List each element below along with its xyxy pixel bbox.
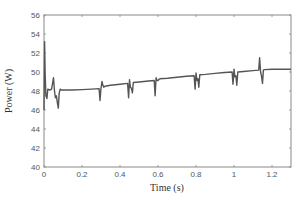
y-tick-label: 46 bbox=[31, 106, 40, 115]
y-axis-label: Power (W) bbox=[3, 69, 15, 113]
x-tick-label: 0.4 bbox=[114, 170, 126, 179]
power-vs-time-chart: 00.20.40.60.811.2 404244464850525456 Tim… bbox=[0, 0, 304, 201]
x-axis-label: Time (s) bbox=[150, 182, 184, 194]
axes-box bbox=[44, 15, 291, 167]
y-tick-label: 40 bbox=[31, 163, 40, 172]
x-tick-label: 1 bbox=[232, 170, 237, 179]
y-tick-label: 48 bbox=[31, 87, 40, 96]
x-tick-label: 0 bbox=[42, 170, 47, 179]
y-tick-label: 56 bbox=[31, 11, 40, 20]
y-tick-label: 42 bbox=[31, 144, 40, 153]
y-tick-label: 54 bbox=[31, 30, 40, 39]
y-tick-label: 52 bbox=[31, 49, 40, 58]
plot-area: 00.20.40.60.811.2 404244464850525456 bbox=[31, 11, 291, 179]
x-axis-ticks: 00.20.40.60.811.2 bbox=[42, 15, 278, 179]
x-tick-label: 0.6 bbox=[152, 170, 164, 179]
y-axis-ticks: 404244464850525456 bbox=[31, 11, 291, 172]
x-tick-label: 0.2 bbox=[76, 170, 88, 179]
y-tick-label: 50 bbox=[31, 68, 40, 77]
x-tick-label: 1.2 bbox=[266, 170, 278, 179]
power-series-line bbox=[44, 42, 291, 110]
x-tick-label: 0.8 bbox=[190, 170, 202, 179]
y-tick-label: 44 bbox=[31, 125, 40, 134]
